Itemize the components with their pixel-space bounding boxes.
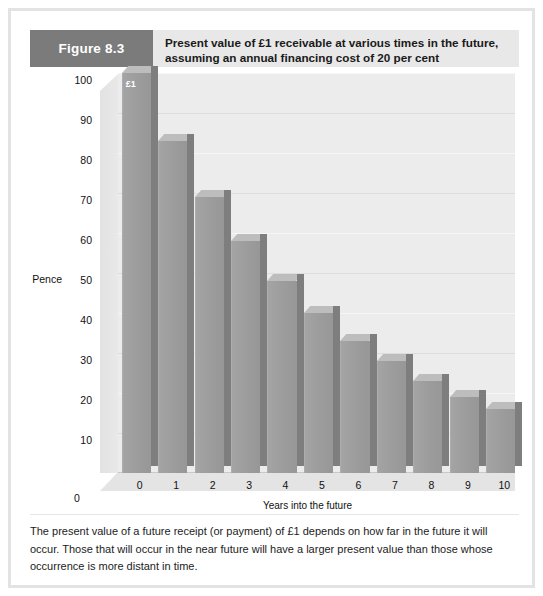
bar-column (340, 73, 369, 473)
bar-column: £1 (122, 73, 151, 473)
bar-front-face (195, 197, 224, 473)
x-axis-tick-label: 2 (210, 479, 216, 491)
bar-column (195, 73, 224, 473)
figure-title-line-1: Present value of £1 receivable at variou… (165, 35, 509, 51)
bar-side-face (333, 306, 340, 466)
bar-column (158, 73, 187, 473)
x-axis-title: Years into the future (100, 500, 515, 511)
y-axis-tick-label: 10 (66, 434, 92, 446)
x-axis-tick-label: 10 (498, 479, 510, 491)
y-axis-zero-label: 0 (74, 492, 80, 504)
bar-side-face (479, 390, 486, 466)
y-axis-tick-label: 70 (66, 194, 92, 206)
y-axis-tick-label: 40 (66, 314, 92, 326)
bar-column (486, 73, 515, 473)
bar-front-face (377, 361, 406, 473)
bar-side-face (260, 234, 267, 466)
x-axis-tick-label: 4 (283, 479, 289, 491)
y-axis-tick-label: 20 (66, 394, 92, 406)
y-axis-tick-label: 50 (66, 274, 92, 286)
figure-title-line-2: assuming an annual financing cost of 20 … (165, 50, 509, 66)
bar-front-face (304, 313, 333, 473)
x-axis-tick-label: 5 (319, 479, 325, 491)
plot-side-wall (100, 73, 119, 473)
bar-side-face (297, 274, 304, 466)
x-axis-tick-label: 9 (465, 479, 471, 491)
bar-side-face (515, 402, 522, 466)
y-axis-tick-label: 30 (66, 354, 92, 366)
bar-front-face (486, 409, 515, 473)
bar-series: £1 (118, 73, 515, 473)
y-axis-tick-label: 80 (66, 154, 92, 166)
bar-side-face (370, 334, 377, 466)
x-axis-tick-label: 8 (428, 479, 434, 491)
bar-side-face (224, 190, 231, 466)
plot-area: £1 012345678910 Years into the future (100, 73, 515, 505)
bar-front-face (231, 241, 260, 473)
y-axis-tick-label: 60 (66, 234, 92, 246)
x-axis-tick-label: 0 (137, 479, 143, 491)
bar-front-face (413, 381, 442, 473)
x-axis-tick-label: 1 (173, 479, 179, 491)
bar-side-face (187, 134, 194, 466)
figure-caption: The present value of a future receipt (o… (30, 523, 514, 576)
bar-front-face (122, 73, 151, 473)
bar-side-face (442, 374, 449, 466)
bar-side-face (406, 354, 413, 466)
figure-number-tag: Figure 8.3 (30, 30, 153, 67)
bar-column (413, 73, 442, 473)
bar-front-face (158, 141, 187, 473)
bar-column (267, 73, 296, 473)
figure-frame: Figure 8.3 Present value of £1 receivabl… (8, 8, 535, 588)
x-axis-ticks: 012345678910 (118, 479, 515, 495)
bar-front-face (267, 281, 296, 473)
bar-column (377, 73, 406, 473)
y-axis-tick-label: 90 (66, 114, 92, 126)
bar-side-face (151, 66, 158, 466)
figure-title: Present value of £1 receivable at variou… (153, 30, 519, 67)
y-axis-ticks: 0102030405060708090100 (66, 73, 92, 505)
x-axis-tick-label: 6 (356, 479, 362, 491)
y-axis-title: Pence (30, 273, 62, 285)
bar-column (231, 73, 260, 473)
bar-front-face (450, 397, 479, 473)
x-axis-tick-label: 3 (246, 479, 252, 491)
caption-divider (30, 514, 519, 515)
y-axis-tick-label: 100 (66, 74, 92, 86)
chart: 0102030405060708090100 Pence £1 01234567… (30, 73, 519, 505)
x-axis-tick-label: 7 (392, 479, 398, 491)
figure-header: Figure 8.3 Present value of £1 receivabl… (30, 30, 519, 67)
bar-column (450, 73, 479, 473)
bar-column (304, 73, 333, 473)
bar-value-label: £1 (126, 79, 136, 89)
bar-front-face (340, 341, 369, 473)
